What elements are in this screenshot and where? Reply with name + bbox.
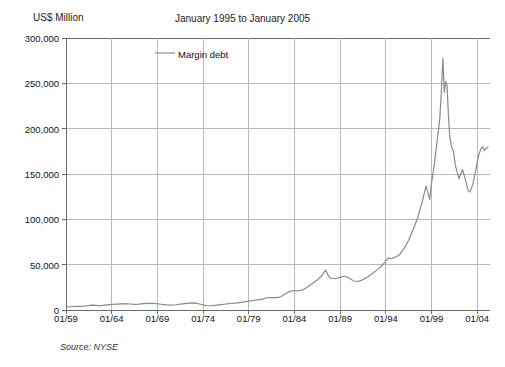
chart-svg	[0, 0, 505, 367]
series-line-margin-debt	[66, 58, 488, 307]
legend-label-margin-debt: Margin debt	[178, 49, 228, 60]
y-axis-tick-label: 50,000	[0, 259, 59, 270]
y-axis-tick-label: 200,000	[0, 123, 59, 134]
x-axis-tick-label: 01/04	[465, 313, 489, 324]
x-axis-tick-label: 01/99	[420, 313, 444, 324]
x-axis-tick-label: 01/74	[191, 313, 215, 324]
x-axis-tick-label: 01/84	[283, 313, 307, 324]
y-axis-tick-label: 0	[0, 305, 59, 316]
y-axis-tick-label: 250,000	[0, 78, 59, 89]
source-note: Source: NYSE	[60, 342, 118, 352]
x-axis-tick-label: 01/69	[145, 313, 169, 324]
x-axis-tick-label: 01/79	[237, 313, 261, 324]
x-axis-tick-label: 01/64	[100, 313, 124, 324]
chart-container: US$ Million January 1995 to January 2005…	[0, 0, 505, 367]
y-axis-tick-label: 150,000	[0, 169, 59, 180]
y-axis-tick-label: 100,000	[0, 214, 59, 225]
y-axis-tick-label: 300,000	[0, 33, 59, 44]
x-axis-tick-label: 01/94	[374, 313, 398, 324]
x-axis-tick-label: 01/89	[328, 313, 352, 324]
x-axis-tick-label: 01/59	[54, 313, 78, 324]
plot-area	[0, 0, 505, 367]
